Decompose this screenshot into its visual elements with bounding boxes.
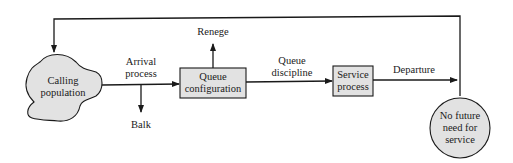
calling-population-line1: Calling	[30, 75, 96, 87]
balk-label: Balk	[121, 119, 161, 131]
renege-label: Renege	[188, 26, 238, 38]
no-future-need-label: No future need for service	[430, 110, 490, 146]
arrival-label-line2: process	[116, 68, 166, 80]
queue-configuration-line2: configuration	[180, 83, 246, 95]
service-process-line1: Service	[333, 69, 373, 81]
calling-population-line2: population	[30, 87, 96, 99]
arrival-process-label: Arrival process	[116, 56, 166, 80]
service-process-line2: process	[333, 81, 373, 93]
queue-configuration-line1: Queue	[180, 71, 246, 83]
queue-discipline-edge	[246, 81, 332, 82]
feedback-loop-edge	[54, 16, 460, 96]
departure-label: Departure	[384, 64, 444, 76]
queue-discipline-label: Queue discipline	[264, 55, 320, 79]
queue-configuration-label: Queue configuration	[180, 71, 246, 95]
service-process-label: Service process	[333, 69, 373, 93]
calling-population-label: Calling population	[30, 75, 96, 99]
no-future-need-line3: service	[430, 134, 490, 146]
arrival-edge	[102, 84, 179, 85]
no-future-need-line1: No future	[430, 110, 490, 122]
queue-discipline-line2: discipline	[264, 67, 320, 79]
queue-discipline-line1: Queue	[264, 55, 320, 67]
no-future-need-line2: need for	[430, 122, 490, 134]
arrival-label-line1: Arrival	[116, 56, 166, 68]
